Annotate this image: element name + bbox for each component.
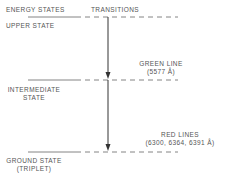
transitions-header: TRANSITIONS [91,6,139,14]
intermediate-state-label-line2: STATE [4,94,64,102]
ground-state-label-line1: GROUND STATE [4,157,64,165]
intermediate-state-label-line1: INTERMEDIATE [4,86,64,94]
ground-state-label-line2: (TRIPLET) [4,165,64,173]
ground-state-label: GROUND STATE (TRIPLET) [4,157,64,173]
red-lines-transition-arrow [106,80,111,151]
red-lines-label-line1: RED LINES [130,131,230,139]
red-lines-wavelengths: (6300, 6364, 6391 Å) [130,139,230,147]
red-lines-label: RED LINES (6300, 6364, 6391 Å) [130,131,230,147]
intermediate-state-label: INTERMEDIATE STATE [4,86,64,102]
green-line-label-line1: GREEN LINE [130,60,192,68]
green-line-transition-arrow [106,17,111,79]
green-line-label: GREEN LINE (5577 Å) [130,60,192,76]
upper-state-label: UPPER STATE [6,22,55,30]
green-line-wavelength: (5577 Å) [130,68,192,76]
energy-states-header: ENERGY STATES [6,6,65,14]
